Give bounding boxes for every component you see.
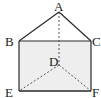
label-f: F bbox=[92, 85, 99, 98]
edge-ab bbox=[19, 12, 59, 41]
edge-ac bbox=[59, 12, 91, 41]
label-c: C bbox=[92, 34, 101, 49]
label-a: A bbox=[54, 0, 64, 14]
label-d: D bbox=[49, 54, 58, 69]
prism-diagram: A B C D E F bbox=[0, 0, 101, 98]
prism-svg: A B C D E F bbox=[0, 0, 101, 98]
label-b: B bbox=[5, 34, 14, 49]
label-e: E bbox=[5, 85, 13, 98]
